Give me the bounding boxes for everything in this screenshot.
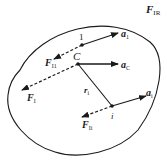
accel-c-label: aC (121, 59, 130, 71)
radius-label: ri (84, 85, 90, 96)
point-i-label: i (111, 111, 114, 121)
center-c-label: C (73, 50, 81, 62)
force-c-label: FI (26, 92, 36, 104)
force-i-dashed-arrow (82, 106, 112, 117)
accel-1-arrow (82, 33, 118, 45)
force-i-label: FIi (81, 119, 93, 131)
point-i-dot (110, 104, 114, 108)
point-1-label: 1 (79, 32, 84, 42)
point-1-dot (80, 43, 84, 47)
resultant-force-label: FIR (145, 3, 161, 17)
accel-i-label: ai (146, 87, 153, 99)
center-c-dot (76, 62, 80, 66)
diagram-canvas: FIR 1 a1 FI1 C aC FI ri i ai FIi (0, 0, 167, 162)
accel-i-arrow (112, 96, 146, 106)
